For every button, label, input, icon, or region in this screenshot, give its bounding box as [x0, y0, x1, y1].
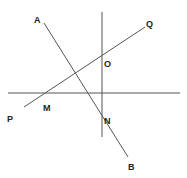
geometry-diagram: A Q O M P N B	[0, 0, 187, 178]
label-a: A	[34, 15, 41, 25]
label-b: B	[128, 162, 135, 172]
label-o: O	[104, 59, 111, 69]
label-m: M	[43, 103, 51, 113]
label-q: Q	[146, 19, 153, 29]
label-p: P	[7, 114, 13, 124]
line-ab	[44, 23, 128, 157]
label-n: N	[104, 116, 111, 126]
line-pq	[24, 27, 145, 107]
